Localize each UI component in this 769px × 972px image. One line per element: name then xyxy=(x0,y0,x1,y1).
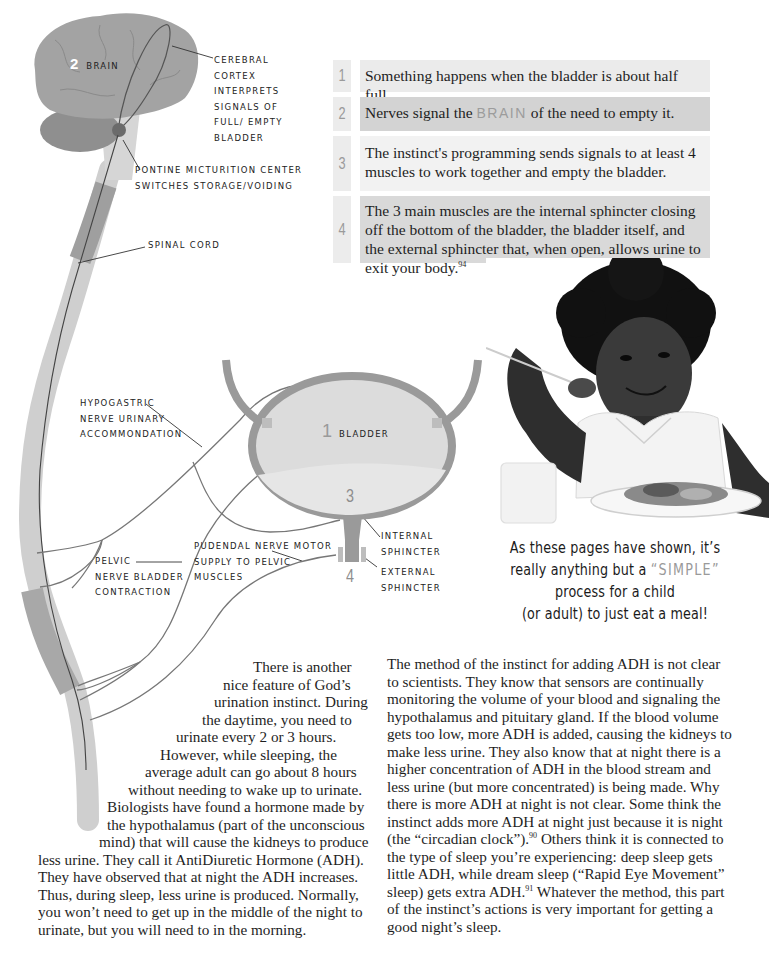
text-line: Thus, during sleep, less urine is produc… xyxy=(38,886,368,904)
text-line: the daytime, you need to xyxy=(38,711,368,729)
spinal-cord-label: Spinal cord xyxy=(148,238,220,254)
pontine-center-label: Pontine micturition center switches stor… xyxy=(135,163,302,194)
cerebral-cortex-label: Cerebral cortex interprets signals of fu… xyxy=(214,53,283,146)
pudendal-nerve-label: Pudendal nerve motor supply to pelvic mu… xyxy=(194,539,332,586)
left-column-text: There is anothernice feature of God’suri… xyxy=(38,658,368,938)
step-text: The instinct's programming sends signals… xyxy=(360,136,710,191)
step-number: 1 xyxy=(333,60,351,92)
right-column-text: The method of the instinct for adding AD… xyxy=(387,655,732,935)
sphincter-number-4: 4 xyxy=(346,566,354,587)
step-row: 4 The 3 main muscles are the internal sp… xyxy=(330,196,710,263)
text-line: nice feature of God’s xyxy=(38,676,368,694)
footnote-ref: 94 xyxy=(458,260,466,269)
brain-text: Brain xyxy=(86,61,119,71)
text-line: less urine. They call it AntiDiuretic Ho… xyxy=(38,851,368,869)
child-eating-photo xyxy=(486,258,769,528)
text-line: urinate every 2 or 3 hours. xyxy=(38,728,368,746)
internal-sphincter-label: Internal sphincter xyxy=(381,529,441,560)
step-number: 2 xyxy=(333,97,351,131)
step-number: 4 xyxy=(333,196,351,263)
text-line: There is another xyxy=(38,658,368,676)
text-line: However, while sleeping, the xyxy=(38,746,368,764)
bladder-number: 1 xyxy=(322,421,332,441)
text-line: urinate, but you will need to in the mor… xyxy=(38,921,368,939)
text-line: without needing to wake up to urinate. xyxy=(38,781,368,799)
external-sphincter-label: External sphincter xyxy=(381,565,441,596)
text-line: Biologists have found a hormone made by xyxy=(38,798,368,816)
step-text: The 3 main muscles are the internal sphi… xyxy=(360,196,710,263)
step-row: 3 The instinct's programming sends signa… xyxy=(330,136,710,191)
text-line: average adult can go about 8 hours xyxy=(38,763,368,781)
text-line: mind) that will cause the kidneys to pro… xyxy=(38,833,368,851)
simple-highlight: “SIMPLE” xyxy=(651,561,720,579)
bladder-number-3: 3 xyxy=(346,486,354,507)
text-line: the hypothalamus (part of the unconsciou… xyxy=(38,816,368,834)
hypogastric-nerve-label: Hypogastric nerve urinary accommondation xyxy=(80,396,182,443)
pontine-micturition-center xyxy=(112,123,126,137)
step-text: Something happens when the bladder is ab… xyxy=(360,60,710,92)
bladder-text: Bladder xyxy=(339,429,389,439)
brain-number: 2 xyxy=(70,55,78,72)
text-line: urination instinct. During xyxy=(38,693,368,711)
step-row: 2 Nerves signal the BRAIN of the need to… xyxy=(330,97,710,131)
bladder-label: 1 Bladder xyxy=(322,424,389,443)
pelvic-nerve-label: Pelvic nerve bladder contraction xyxy=(95,554,184,601)
brain-highlight: BRAIN xyxy=(476,105,526,121)
text-line: They have observed that at night the ADH… xyxy=(38,868,368,886)
text-line: you won’t need to get up in the middle o… xyxy=(38,903,368,921)
brain-label: 2 Brain xyxy=(70,56,119,75)
step-text: Nerves signal the BRAIN of the need to e… xyxy=(360,97,710,131)
step-number: 3 xyxy=(333,136,351,191)
photo-caption: As these pages have shown, it’s really a… xyxy=(492,537,739,625)
footnote-ref: 90 xyxy=(529,831,537,840)
step-row: 1 Something happens when the bladder is … xyxy=(330,60,710,92)
steps-table: 1 Something happens when the bladder is … xyxy=(330,60,710,268)
